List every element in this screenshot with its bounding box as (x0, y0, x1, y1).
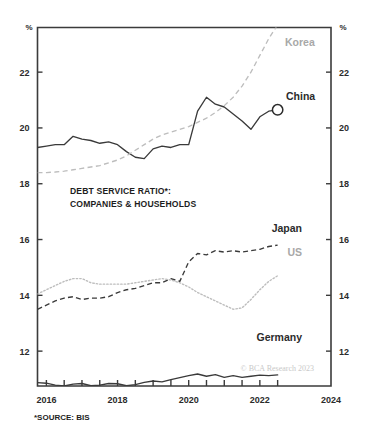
chart-container: 121416182022 121416182022 20162018202020… (0, 0, 375, 432)
y-axis-labels-right: 121416182022 (339, 68, 349, 357)
y-tick-label-right: 20 (339, 123, 349, 133)
y-tick-label-left: 12 (19, 347, 29, 357)
x-tick-label: 2016 (36, 395, 56, 405)
y-tick-label-left: 18 (19, 179, 29, 189)
series-line-china (38, 97, 278, 158)
y-tick-label-right: 12 (339, 347, 349, 357)
debt-service-ratio-chart: 121416182022 121416182022 20162018202020… (0, 0, 375, 432)
series-line-korea (38, 25, 278, 173)
series-line-us (38, 276, 278, 309)
series-label-japan: Japan (272, 222, 302, 234)
x-axis-labels: 20162018202020222024 (36, 395, 341, 405)
y-tick-label-right: 18 (339, 179, 349, 189)
series-label-korea: Korea (285, 36, 315, 48)
series-label-us: US (287, 246, 302, 258)
series-label-germany: Germany (256, 331, 302, 343)
watermark: © BCA Research 2023 (241, 364, 314, 373)
y-tick-label-right: 14 (339, 291, 349, 301)
series-end-markers (272, 105, 282, 115)
y-tick-label-left: 20 (19, 123, 29, 133)
x-tick-label: 2022 (250, 395, 270, 405)
series-line-japan (38, 245, 278, 309)
x-tick-label: 2020 (179, 395, 199, 405)
chart-title-line-2: COMPANIES & HOUSEHOLDS (70, 199, 196, 209)
series-label-china: China (286, 90, 315, 102)
y-axis-unit-right: % (339, 23, 346, 32)
y-tick-label-right: 16 (339, 235, 349, 245)
y-axis-labels-left: 121416182022 (19, 68, 29, 357)
x-tick-label: 2018 (108, 395, 128, 405)
y-tick-label-left: 16 (19, 235, 29, 245)
y-tick-label-left: 22 (19, 68, 29, 78)
source-footnote: *SOURCE: BIS (34, 413, 90, 422)
end-marker-china (272, 105, 282, 115)
series-labels-group: ChinaKoreaJapanUSGermany (256, 36, 315, 343)
y-axis-unit-left: % (25, 23, 32, 32)
y-tick-label-right: 22 (339, 68, 349, 78)
y-tick-label-left: 14 (19, 291, 29, 301)
x-tick-label: 2024 (321, 395, 341, 405)
chart-title-line-1: DEBT SERVICE RATIO*: (70, 186, 171, 196)
